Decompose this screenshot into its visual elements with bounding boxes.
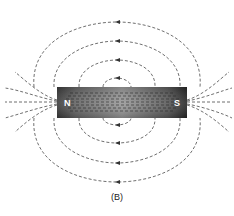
field-lines-bottom	[34, 118, 200, 182]
figure-caption: (B)	[0, 192, 234, 202]
north-pole-label: N	[64, 98, 71, 108]
south-pole-label: S	[174, 98, 180, 108]
bar-magnet	[57, 87, 187, 118]
magnetic-field-diagram: N S	[0, 0, 234, 216]
